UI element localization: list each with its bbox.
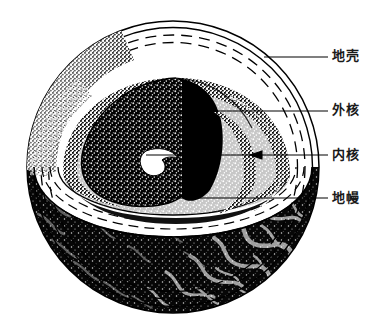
earth-interior-cutaway-diagram [0, 0, 376, 329]
label-inner-core: 内核 [332, 148, 360, 162]
label-crust: 地壳 [332, 49, 360, 63]
label-outer-core: 外核 [332, 103, 360, 117]
label-mantle: 地幔 [332, 191, 360, 205]
